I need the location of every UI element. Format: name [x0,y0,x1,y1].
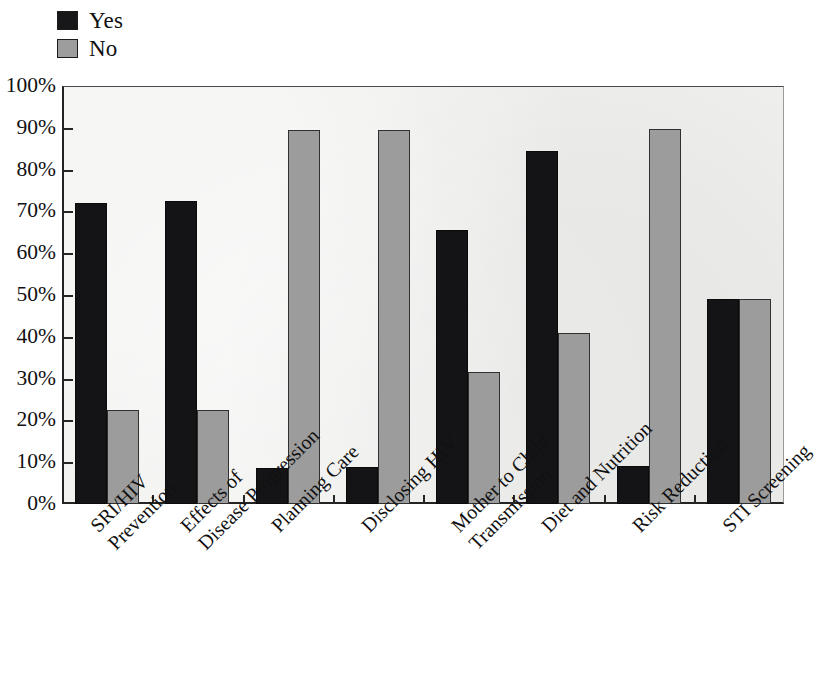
x-axis-label-line: STI Screening [718,439,815,536]
x-axis-label: Effects ofDisease Progression [175,406,325,556]
x-axis-label: SRI/HIVPrevention [85,459,182,556]
x-axis-label: STI Screening [717,439,816,538]
x-axis-label-line: Risk Reduction [627,433,730,536]
